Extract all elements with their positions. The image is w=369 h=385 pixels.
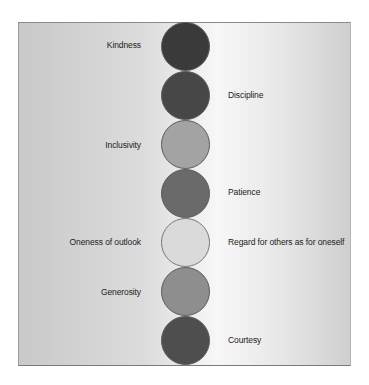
circle-generosity: [161, 267, 210, 316]
circle-discipline: [161, 71, 210, 120]
label-generosity: Generosity: [101, 287, 141, 297]
label-patience: Patience: [228, 187, 260, 197]
label-courtesy: Courtesy: [228, 335, 261, 345]
label-oneness-of-outlook: Oneness of outlook: [70, 237, 141, 247]
label-regard-for-others: Regard for others as for oneself: [228, 237, 344, 247]
circle-inclusivity: [161, 120, 210, 169]
label-inclusivity: Inclusivity: [105, 140, 141, 150]
circle-oneness-regard: [161, 218, 210, 267]
circle-kindness: [161, 22, 210, 71]
circle-courtesy: [161, 316, 210, 365]
label-discipline: Discipline: [228, 90, 263, 100]
label-kindness: Kindness: [107, 40, 141, 50]
circle-patience: [161, 169, 210, 218]
